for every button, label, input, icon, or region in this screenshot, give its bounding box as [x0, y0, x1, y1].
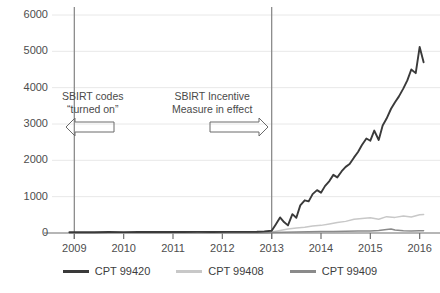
x-axis-tick-label: 2012: [200, 243, 244, 254]
data-series: [69, 47, 423, 233]
legend-swatch: [176, 270, 202, 273]
x-axis-tick-label: 2016: [398, 243, 440, 254]
legend-item[interactable]: CPT 99408: [176, 266, 263, 277]
legend-label: CPT 99408: [208, 266, 263, 277]
y-axis-tick-label: 4000: [8, 82, 48, 93]
y-axis-tick-label: 6000: [8, 9, 48, 20]
y-axis-tick-label: 5000: [8, 45, 48, 56]
legend-label: CPT 99420: [95, 266, 150, 277]
x-axis-tick-label: 2015: [348, 243, 392, 254]
legend-swatch: [290, 270, 316, 273]
series-line-cpt-99408: [69, 214, 423, 232]
x-axis-tick-label: 2009: [52, 243, 96, 254]
arrow-left-icon: [66, 118, 114, 136]
axes: [44, 233, 440, 239]
annotation-sbirt-incentive-line1: SBIRT Incentive: [172, 90, 252, 103]
annotation-sbirt-codes-line2: “turned on”: [62, 103, 123, 116]
x-axis-tick-label: 2010: [102, 243, 146, 254]
annotation-sbirt-incentive-line2: Measure in effect: [172, 103, 252, 116]
x-axis-tick-label: 2014: [299, 243, 343, 254]
y-axis-tick-label: 3000: [8, 118, 48, 129]
annotation-sbirt-codes-line1: SBIRT codes: [62, 90, 123, 103]
legend-swatch: [63, 270, 89, 273]
line-chart: 0100020003000400050006000 20092010201120…: [0, 0, 440, 293]
arrow-right-icon: [210, 118, 268, 136]
legend-item[interactable]: CPT 99409: [290, 266, 377, 277]
y-axis-tick-label: 1000: [8, 191, 48, 202]
legend-item[interactable]: CPT 99420: [63, 266, 150, 277]
x-axis-tick-label: 2013: [250, 243, 294, 254]
y-axis-tick-label: 0: [8, 227, 48, 238]
reference-lines: [74, 7, 271, 239]
x-axis-tick-label: 2011: [151, 243, 195, 254]
annotation-sbirt-codes: SBIRT codes “turned on”: [62, 90, 123, 116]
annotation-arrows: [66, 118, 268, 136]
series-line-cpt-99420: [69, 47, 423, 232]
annotation-sbirt-incentive: SBIRT Incentive Measure in effect: [172, 90, 252, 116]
legend-label: CPT 99409: [322, 266, 377, 277]
chart-legend: CPT 99420CPT 99408CPT 99409: [0, 266, 440, 277]
y-axis-tick-label: 2000: [8, 154, 48, 165]
